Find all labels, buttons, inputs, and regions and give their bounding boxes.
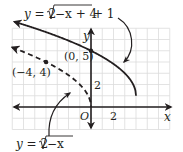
label-point-neg4-4: (−4, 4) [12, 66, 51, 79]
bottom-equation-label: y = 2 −x [15, 136, 73, 151]
top-equation-label: y = 2 −x + 4 + 1 [23, 5, 115, 21]
x-axis-label: x [164, 110, 171, 124]
y-tick-2: 2 [94, 79, 101, 92]
label-point-0-5: (0, 5) [64, 50, 94, 63]
x-tick-2: 2 [110, 110, 117, 123]
origin-label: O [80, 110, 89, 123]
graph: y = 2 −x + 4 + 1 y = 2 −x (0, 5) (−4, 4)… [0, 0, 183, 152]
bottom-eq-radicand: −x [47, 137, 64, 151]
y-axis-label: y [82, 29, 90, 43]
top-eq-radicand: −x + 4 [55, 7, 98, 21]
top-eq-suffix: + 1 [93, 7, 115, 21]
point-neg4-4 [44, 60, 48, 64]
